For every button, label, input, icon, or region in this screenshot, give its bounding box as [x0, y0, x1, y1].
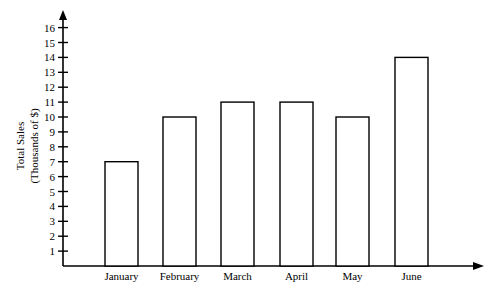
x-category-label: February	[160, 270, 200, 282]
bar-may	[336, 117, 369, 266]
bar-chart: 12345678910111213141516 JanuaryFebruaryM…	[0, 0, 491, 290]
y-tick-label: 15	[44, 37, 56, 49]
x-category-label: March	[223, 270, 252, 282]
x-axis-arrow-icon	[473, 262, 484, 270]
y-tick-label: 2	[50, 230, 56, 242]
y-tick-label: 10	[44, 111, 56, 123]
x-category-label: April	[285, 270, 308, 282]
bar-june	[395, 57, 428, 266]
y-tick-label: 14	[44, 51, 56, 63]
y-axis-title: Total Sales (Thousands of $)	[14, 108, 41, 183]
y-tick-label: 8	[50, 141, 56, 153]
y-tick-label: 11	[44, 96, 55, 108]
y-axis-arrow-icon	[59, 10, 67, 20]
y-tick-label: 13	[44, 66, 56, 78]
y-tick-label: 1	[50, 245, 56, 257]
x-category-label: January	[104, 270, 139, 282]
bars	[105, 57, 428, 266]
bar-march	[221, 102, 254, 266]
y-tick-label: 4	[50, 200, 56, 212]
bar-february	[163, 117, 196, 266]
y-tick-label: 5	[50, 186, 56, 198]
y-tick-label: 3	[50, 215, 56, 227]
x-category-label: June	[401, 270, 421, 282]
bar-april	[280, 102, 313, 266]
y-tick-label: 16	[44, 22, 56, 34]
y-axis: 12345678910111213141516	[44, 10, 68, 266]
y-tick-label: 9	[50, 126, 56, 138]
x-category-label: May	[342, 270, 363, 282]
y-axis-title-line2: (Thousands of $)	[28, 108, 41, 183]
y-axis-title-line1: Total Sales	[14, 122, 26, 170]
y-tick-label: 7	[50, 156, 56, 168]
y-tick-label: 12	[44, 81, 55, 93]
bar-january	[105, 162, 138, 266]
y-tick-label: 6	[50, 171, 56, 183]
